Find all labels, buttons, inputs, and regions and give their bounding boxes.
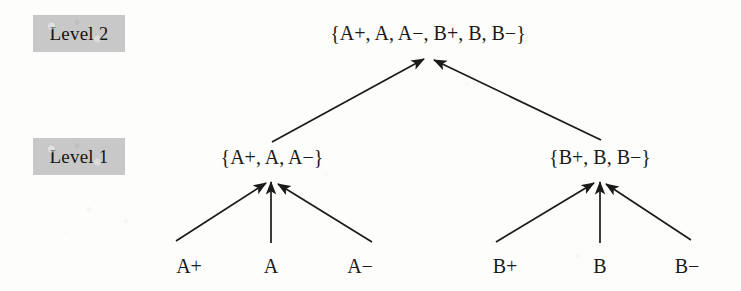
edge-b-minus-to-group-b bbox=[606, 184, 691, 240]
node-root: {A+, A, A−, B+, B, B−} bbox=[330, 20, 525, 46]
node-group-b: {B+, B, B−} bbox=[549, 144, 651, 170]
leaf-a-minus: A− bbox=[347, 253, 373, 279]
leaf-a-plus: A+ bbox=[176, 253, 202, 279]
hierarchy-diagram: Level 2 Level 1 {A+, A, A−, B+, B, B−} {… bbox=[0, 0, 741, 291]
leaf-b-minus: B− bbox=[675, 253, 700, 279]
edge-group-b-to-root bbox=[434, 60, 601, 140]
node-group-a: {A+, A, A−} bbox=[221, 144, 324, 170]
leaf-b-plus: B+ bbox=[493, 253, 518, 279]
edge-group-a-to-root bbox=[272, 59, 424, 142]
edge-b-plus-to-group-b bbox=[496, 183, 594, 242]
edge-a-minus-to-group-a bbox=[278, 184, 372, 242]
edge-a-plus-to-group-a bbox=[176, 183, 266, 241]
leaf-a: A bbox=[264, 253, 278, 279]
leaf-b: B bbox=[593, 253, 606, 279]
